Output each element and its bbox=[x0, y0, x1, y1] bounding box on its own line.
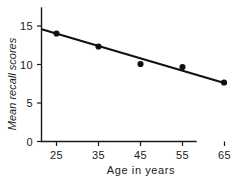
x-tick-label-25: 25 bbox=[50, 149, 63, 161]
data-point-age-55 bbox=[179, 64, 185, 70]
y-tick-label-0: 0 bbox=[26, 136, 33, 148]
x-tick-label-55: 55 bbox=[176, 149, 189, 161]
regression-line bbox=[43, 30, 227, 84]
x-tick-label-65: 65 bbox=[218, 149, 231, 161]
y-tick-label-15: 15 bbox=[20, 20, 33, 32]
data-point-age-25 bbox=[53, 30, 59, 36]
x-tick-label-35: 35 bbox=[92, 149, 105, 161]
data-point-age-45 bbox=[137, 61, 143, 67]
y-tick-label-10: 10 bbox=[20, 59, 33, 71]
data-point-age-35 bbox=[95, 43, 101, 49]
y-axis-title: Mean recall scores bbox=[6, 37, 18, 130]
x-tick-label-45: 45 bbox=[134, 149, 147, 161]
x-axis-title: Age in years bbox=[107, 164, 175, 176]
y-tick-label-5: 5 bbox=[26, 97, 33, 109]
scatter-plot-svg: 0 5 10 15 25 35 45 55 65 Mean recall sc bbox=[0, 0, 245, 179]
chart-container: 0 5 10 15 25 35 45 55 65 Mean recall sc bbox=[0, 0, 245, 179]
data-point-age-65 bbox=[221, 79, 227, 85]
